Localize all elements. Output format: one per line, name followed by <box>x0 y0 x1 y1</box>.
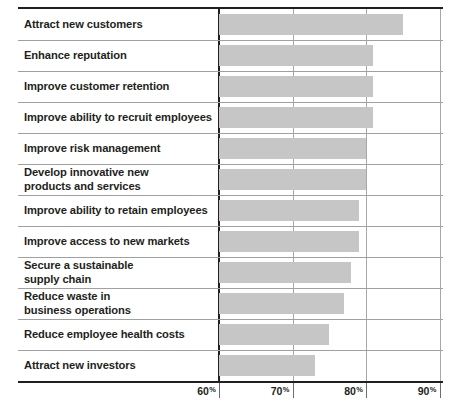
tick-mark-60 <box>219 383 220 398</box>
tick-mark-70 <box>293 383 294 398</box>
bar <box>219 293 344 314</box>
tick-percent-sign: % <box>283 385 290 394</box>
chart-bottom-rule <box>18 381 443 383</box>
category-label-line: Attract new customers <box>24 18 214 32</box>
category-label: Attract new customers <box>24 9 214 40</box>
bar <box>219 107 373 128</box>
category-label-line: business operations <box>24 304 214 318</box>
horizontal-bar-chart: Attract new customersEnhance reputationI… <box>0 0 449 412</box>
bar-series <box>219 9 449 381</box>
tick-mark-80 <box>366 383 367 398</box>
category-label-line: Reduce employee health costs <box>24 328 214 342</box>
category-label: Develop innovative newproducts and servi… <box>24 164 214 195</box>
category-label-line: Reduce waste in <box>24 290 214 304</box>
category-label-line: Attract new investors <box>24 359 214 373</box>
category-label: Reduce waste inbusiness operations <box>24 288 214 319</box>
tick-label-60: 60% <box>197 385 219 397</box>
bar <box>219 324 329 345</box>
tick-label-90: 90% <box>418 385 440 397</box>
bar <box>219 138 366 159</box>
category-label-line: Secure a sustainable <box>24 259 214 273</box>
category-label-line: Improve customer retention <box>24 80 214 94</box>
bar <box>219 262 351 283</box>
tick-mark-90 <box>440 383 441 398</box>
tick-percent-sign: % <box>430 385 437 394</box>
category-label-line: Develop innovative new <box>24 166 214 180</box>
bar <box>219 14 403 35</box>
tick-percent-sign: % <box>356 385 363 394</box>
category-label: Improve access to new markets <box>24 226 214 257</box>
category-label: Enhance reputation <box>24 40 214 71</box>
tick-label-80: 80% <box>344 385 366 397</box>
category-label: Improve customer retention <box>24 71 214 102</box>
tick-label-70: 70% <box>271 385 293 397</box>
category-label: Improve ability to recruit employees <box>24 102 214 133</box>
bar <box>219 169 366 190</box>
category-label-line: Enhance reputation <box>24 49 214 63</box>
category-label-line: Improve risk management <box>24 142 214 156</box>
category-label-line: Improve ability to retain employees <box>24 204 214 218</box>
category-label-line: supply chain <box>24 273 214 287</box>
tick-value: 80 <box>344 385 356 397</box>
bar <box>219 231 359 252</box>
tick-value: 70 <box>271 385 283 397</box>
tick-value: 90 <box>418 385 430 397</box>
category-label: Secure a sustainablesupply chain <box>24 257 214 288</box>
category-label: Attract new investors <box>24 350 214 381</box>
bar <box>219 200 359 221</box>
category-label-line: Improve ability to recruit employees <box>24 111 214 125</box>
category-label-line: Improve access to new markets <box>24 235 214 249</box>
bar <box>219 45 373 66</box>
bar <box>219 355 315 376</box>
category-label: Reduce employee health costs <box>24 319 214 350</box>
category-label-line: products and services <box>24 180 214 194</box>
tick-percent-sign: % <box>209 385 216 394</box>
category-label: Improve risk management <box>24 133 214 164</box>
bar <box>219 76 373 97</box>
tick-value: 60 <box>197 385 209 397</box>
category-label: Improve ability to retain employees <box>24 195 214 226</box>
